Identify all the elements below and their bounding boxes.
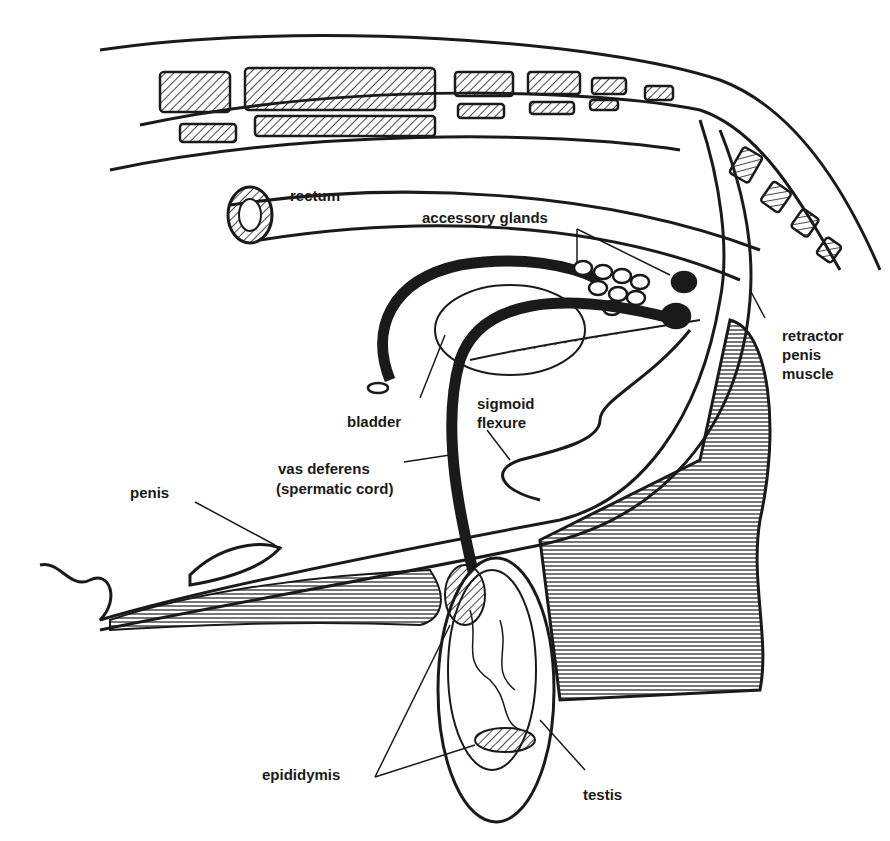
label-retractor-penis-muscle-1: retractor [782,326,844,345]
accessory-glands-shape [574,261,696,328]
anatomy-drawing [0,0,890,841]
label-bladder: bladder [347,412,401,431]
label-penis: penis [130,483,169,502]
label-rectum: rectum [290,186,340,205]
label-sigmoid-flexure-1: sigmoid [477,394,535,413]
label-accessory-glands: accessory glands [422,208,548,227]
label-retractor-penis-muscle-3: muscle [782,364,834,383]
testis-shape [438,558,554,822]
label-retractor-penis-muscle-2: penis [782,345,821,364]
label-sigmoid-flexure-2: flexure [477,413,526,432]
label-testis: testis [583,785,622,804]
label-vas-deferens-2: (spermatic cord) [276,479,394,498]
label-vas-deferens-1: vas deferens [278,459,370,478]
label-epididymis: epididymis [262,765,340,784]
spine-outline [100,36,880,270]
